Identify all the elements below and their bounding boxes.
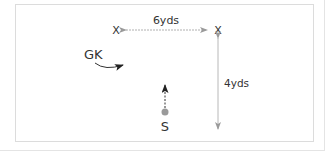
ball-icon	[162, 109, 169, 116]
cone-left-marker: X	[112, 24, 120, 37]
goalkeeper-label: GK	[84, 47, 103, 62]
height-distance-label: 4yds	[224, 77, 249, 89]
cone-right-marker: X	[214, 24, 222, 37]
drill-diagram: 6yds X X 4yds GK S	[0, 0, 335, 157]
width-distance-label: 6yds	[153, 14, 179, 27]
striker-label: S	[161, 119, 169, 134]
goalkeeper-movement-arrow	[95, 63, 123, 68]
